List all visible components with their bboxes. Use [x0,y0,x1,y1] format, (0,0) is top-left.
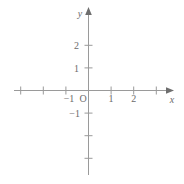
x-axis-arrow-icon [166,87,174,94]
x-axis-tick-label-neg1: −1 [64,93,75,104]
y-axis-tick-label-2: 2 [74,40,79,51]
y-axis-label: y [77,8,83,19]
y-axis-arrow-icon [85,7,92,15]
x-axis-tick-label-1: 1 [109,93,114,104]
x-axis-label: x [169,94,175,105]
x-axis-tick-label-2: 2 [131,93,136,104]
axes-svg: 2 1 −1 −1 1 2 O x y [0,0,184,184]
y-axis-tick-label-neg1: −1 [69,108,80,119]
y-axis-tick-label-1: 1 [74,63,79,74]
origin-label: O [79,93,86,104]
coordinate-plane-figure: 2 1 −1 −1 1 2 O x y [0,0,184,184]
